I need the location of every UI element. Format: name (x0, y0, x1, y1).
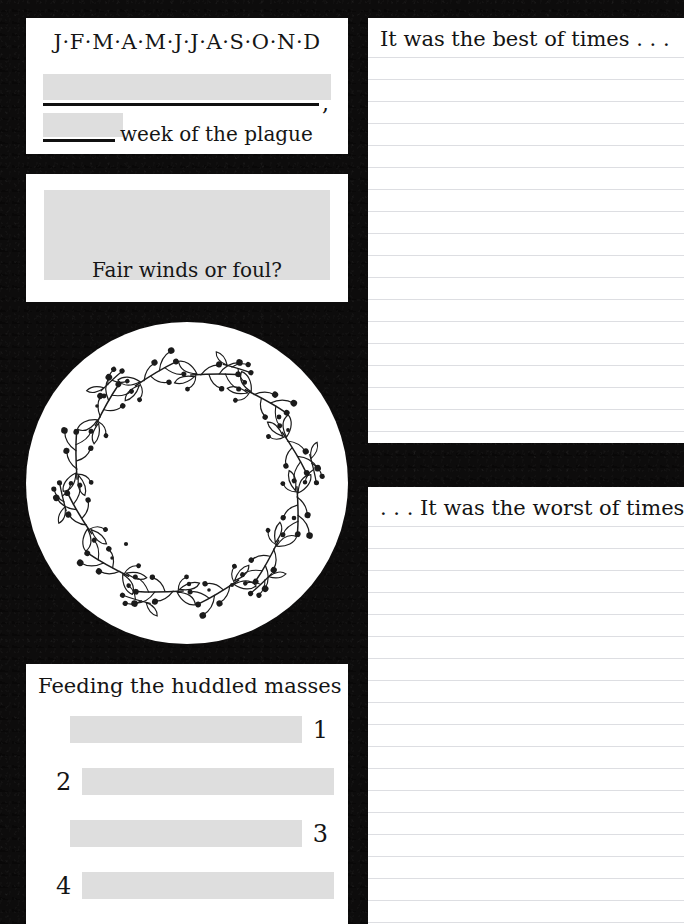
feeding-entry-field-2[interactable] (82, 768, 334, 795)
ruled-line (368, 409, 684, 410)
ruled-line (368, 57, 684, 58)
ruled-line (368, 592, 684, 593)
ruled-line (368, 526, 684, 527)
feeding-row-number-1: 1 (313, 714, 328, 746)
ruled-line (368, 189, 684, 190)
ruled-line (368, 922, 684, 923)
months-card: J·F·M·A·M·J·J·A·S·O·N·D , week of the pl… (26, 18, 348, 154)
feeding-card: Feeding the huddled masses 1 2 3 4 (26, 664, 348, 924)
ruled-line (368, 856, 684, 857)
feeding-row-number-3: 3 (313, 818, 328, 850)
ruled-line (368, 145, 684, 146)
worst-of-times-ruled-area[interactable] (368, 487, 684, 924)
weather-card: Fair winds or foul? (26, 174, 348, 302)
feeding-row-number-2: 2 (56, 766, 71, 798)
ruled-line (368, 746, 684, 747)
ruled-line (368, 548, 684, 549)
ruled-line (368, 365, 684, 366)
best-of-times-heading: It was the best of times . . . (380, 27, 670, 51)
feeding-entry-field-3[interactable] (70, 820, 302, 847)
week-number-field[interactable] (43, 113, 123, 137)
ruled-line (368, 614, 684, 615)
ruled-line (368, 299, 684, 300)
feeding-row-3: 3 (38, 816, 334, 850)
month-entry-rule-1 (43, 103, 319, 106)
best-of-times-ruled-area[interactable] (368, 18, 684, 443)
ruled-line (368, 79, 684, 80)
ruled-line (368, 431, 684, 432)
ruled-line (368, 900, 684, 901)
ruled-line (368, 233, 684, 234)
feeding-row-1: 1 (38, 712, 334, 746)
ruled-line (368, 101, 684, 102)
floral-wreath-icon[interactable] (26, 322, 348, 644)
worst-of-times-panel: . . . It was the worst of times (368, 487, 684, 924)
ruled-line (368, 570, 684, 571)
worst-of-times-heading: . . . It was the worst of times (380, 496, 684, 520)
ruled-line (368, 123, 684, 124)
comma-glyph: , (322, 93, 329, 115)
journal-page: J·F·M·A·M·J·J·A·S·O·N·D , week of the pl… (0, 0, 684, 924)
weather-caption: Fair winds or foul? (26, 258, 348, 282)
ruled-line (368, 724, 684, 725)
ruled-line (368, 387, 684, 388)
ruled-line (368, 343, 684, 344)
week-number-rule (43, 139, 115, 142)
feeding-entry-field-1[interactable] (70, 716, 302, 743)
ruled-line (368, 277, 684, 278)
month-initials-strip[interactable]: J·F·M·A·M·J·J·A·S·O·N·D (26, 30, 348, 54)
ruled-line (368, 878, 684, 879)
ruled-line (368, 658, 684, 659)
feeding-row-number-4: 4 (56, 870, 71, 902)
feeding-entry-field-4[interactable] (82, 872, 334, 899)
ruled-line (368, 702, 684, 703)
best-of-times-panel: It was the best of times . . . (368, 18, 684, 443)
ruled-line (368, 167, 684, 168)
feeding-row-2: 2 (38, 764, 334, 798)
ruled-line (368, 211, 684, 212)
ruled-line (368, 255, 684, 256)
ruled-line (368, 321, 684, 322)
feeding-row-4: 4 (38, 868, 334, 902)
feeding-card-title: Feeding the huddled masses (38, 674, 342, 698)
ruled-line (368, 680, 684, 681)
ruled-line (368, 768, 684, 769)
ruled-line (368, 834, 684, 835)
plague-week-caption: week of the plague (120, 122, 313, 146)
ruled-line (368, 790, 684, 791)
month-entry-field-1[interactable] (43, 74, 331, 100)
ruled-line (368, 636, 684, 637)
ruled-line (368, 812, 684, 813)
